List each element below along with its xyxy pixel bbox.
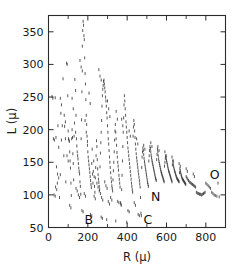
- y-tick-label: 250: [23, 91, 44, 104]
- scatter-plot-figure: 0200400600800 50100150200250300350 BCNO …: [0, 0, 241, 268]
- axes-frame: [49, 16, 226, 228]
- y-axis-ticks: [49, 32, 226, 228]
- plot-canvas: 0200400600800 50100150200250300350 BCNO …: [0, 0, 241, 268]
- y-axis-tick-labels: 50100150200250300350: [23, 26, 44, 235]
- plot-frame: [49, 16, 226, 228]
- annotation-label-b: B: [85, 212, 94, 227]
- y-tick-label: 100: [23, 189, 44, 202]
- y-tick-label: 50: [30, 222, 44, 235]
- x-axis-ticks: [49, 16, 206, 228]
- x-tick-label: 800: [195, 231, 216, 244]
- annotation-label-n: N: [151, 189, 160, 204]
- y-tick-label: 200: [23, 124, 44, 137]
- x-tick-label: 200: [77, 231, 98, 244]
- x-tick-label: 600: [156, 231, 177, 244]
- annotation-label-c: C: [143, 212, 152, 227]
- x-axis-title: R (μ): [123, 250, 151, 264]
- y-tick-label: 350: [23, 26, 44, 39]
- plot-annotations: BCNO: [85, 167, 220, 227]
- x-tick-label: 400: [117, 231, 138, 244]
- data-points-layer: [52, 20, 219, 224]
- x-tick-label: 0: [45, 231, 52, 244]
- x-axis-tick-labels: 0200400600800: [45, 231, 216, 244]
- y-tick-label: 300: [23, 58, 44, 71]
- annotation-label-o: O: [210, 167, 220, 182]
- y-tick-label: 150: [23, 156, 44, 169]
- y-axis-title: L (μ): [5, 108, 19, 134]
